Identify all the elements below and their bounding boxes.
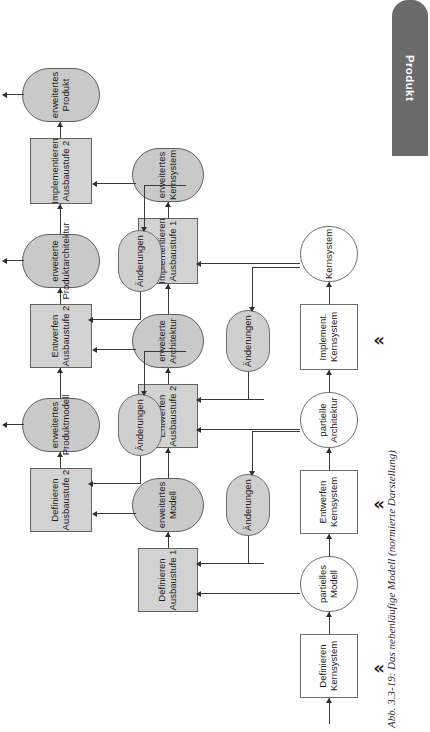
node-partielles-modell[interactable]: partielles Modell: [300, 556, 358, 612]
figure-page: Definieren Kernsystem partielles Modell …: [0, 0, 430, 732]
edge-r2arch-up: [96, 349, 136, 350]
arrowhead-r3kern-up: [196, 261, 201, 267]
edge-aend-r2-2-riser: [200, 399, 248, 400]
node-erweiterte-produktarchitektur[interactable]: erweiterte Produktarchitektur: [22, 234, 100, 288]
arrowhead-partarch-to-implement: [326, 370, 332, 375]
edge-r3modell-up: [200, 593, 300, 594]
arrowhead-cont-3: [2, 92, 7, 98]
edge-erwkern-riser: [144, 185, 186, 186]
edge-aend-r2-2-left: [248, 372, 249, 400]
diagram-canvas: Definieren Kernsystem partielles Modell …: [0, 0, 430, 732]
milestone-marker-1: «: [373, 659, 385, 677]
node-aenderungen-r2-1[interactable]: Änderungen: [226, 474, 270, 536]
edge-aend-r1-1-riser: [92, 483, 140, 484]
arrowhead-partmodell-to-entwerfen: [326, 534, 332, 539]
edge-cont-2: [6, 260, 24, 261]
node-implementieren-ausbaustufe-2[interactable]: Implementieren Ausbaustufe 2: [30, 138, 92, 204]
arrowhead-r2-a1-to-erwmodell: [165, 532, 171, 537]
node-aenderungen-r1-2[interactable]: Änderungen: [118, 230, 162, 292]
edge-aend-r1-2-riser: [92, 319, 140, 320]
arrowhead-erwkern-to-aend-r1-2: [141, 227, 147, 232]
node-entwerfen-kernsystem[interactable]: Entwerfen Kernsystem: [300, 470, 358, 534]
node-implement-kernsystem[interactable]: Implement. Kernsystem: [300, 304, 358, 370]
edge-kernsystem-to-aend-r2-2: [252, 268, 253, 310]
continuation-dots-3: ⋯: [0, 88, 1, 103]
edge-kernsystem-riser: [252, 267, 300, 268]
edge-r3kern-up: [200, 263, 300, 264]
node-partielle-architektur[interactable]: partielle Architektur: [300, 392, 358, 448]
node-erweitertes-kernsystem[interactable]: erweitertes Kernsystem: [132, 148, 204, 202]
node-erweitertes-produktmodell[interactable]: erweitertes Produktmodell: [22, 398, 100, 452]
arrowhead-r1-entw-to-prodarch: [57, 288, 63, 293]
edge-cont-1: [6, 424, 24, 425]
arrowhead-partarch-to-aend-r2-1: [249, 471, 255, 476]
arrowhead-erwarch-to-aend-r1-1: [141, 391, 147, 396]
edge-cont-3: [6, 94, 24, 95]
arrowhead-r1-impl-to-erwprodukt: [57, 122, 63, 127]
edge-aend-r1-2-left: [140, 292, 141, 320]
arrowhead-aend-r1-1-up: [88, 481, 93, 487]
edge-partarch-riser: [252, 431, 300, 432]
edge-r3arch-up: [200, 429, 300, 430]
edge-r2kern-up: [96, 183, 136, 184]
node-erweitertes-modell[interactable]: erweitertes Modell: [132, 478, 204, 532]
arrowhead-def-to-partmodell: [326, 612, 332, 617]
produkt-tab-label: Produkt: [404, 55, 416, 101]
edge-erwarch-riser: [144, 351, 186, 352]
edge-aend-r2-1-up: [248, 563, 264, 564]
edge-erwarch-to-aend-r1-1: [144, 352, 145, 394]
edge-partarch-to-aend-r2-1: [252, 432, 253, 474]
arrowhead-aend-r2-1-up: [196, 561, 201, 567]
arrowhead-r2-impl-to-erwkern: [165, 202, 171, 207]
edge-aend-r2-1-left: [248, 536, 249, 564]
arrowhead-implement-to-kernsystem: [326, 282, 332, 287]
arrowhead-aend-r2-2-up: [196, 397, 201, 403]
arrowhead-r2-entw-to-erwarch: [165, 368, 171, 373]
continuation-dots-1: ⋯: [0, 418, 1, 433]
milestone-marker-3: «: [373, 331, 385, 349]
node-erweitertes-produkt[interactable]: erweitertes Produkt: [22, 68, 100, 122]
edge-aend-r1-1-left: [140, 456, 141, 484]
edge-aend-r2-1-riser: [200, 563, 248, 564]
figure-rotation-wrapper: Definieren Kernsystem partielles Modell …: [0, 0, 430, 732]
node-definieren-ausbaustufe-1[interactable]: Definieren Ausbaustufe 1: [138, 548, 198, 612]
node-erweiterte-architektur[interactable]: erweiterte Architektur: [132, 314, 204, 368]
arrowhead-cont-2: [2, 258, 7, 264]
edge-r2modell-up: [96, 513, 136, 514]
arrowhead-kernsystem-to-aend-r2-2: [249, 307, 255, 312]
arrowhead-r3modell-up: [196, 591, 201, 597]
node-entwerfen-ausbaustufe-2-row1[interactable]: Entwerfen Ausbaustufe 2: [30, 304, 92, 368]
arrowhead-r2kern-up: [92, 181, 97, 187]
arrowhead-entry-kernsystem: [326, 698, 332, 703]
arrowhead-r2-erwarch-to-impl: [165, 284, 171, 289]
node-aenderungen-r2-2[interactable]: Änderungen: [226, 310, 270, 372]
edge-erwkern-to-aend-r1-2: [144, 186, 145, 230]
produkt-tab[interactable]: Produkt: [392, 0, 428, 156]
arrowhead-r3arch-up: [196, 427, 201, 433]
continuation-dots-2: ⋯: [0, 254, 1, 269]
arrowhead-r2arch-up: [92, 347, 97, 353]
edge-aend-r2-2-up: [248, 399, 264, 400]
arrowhead-entwerfen-to-partarch: [326, 448, 332, 453]
node-kernsystem[interactable]: Kernsystem: [300, 226, 358, 282]
node-definieren-kernsystem[interactable]: Definieren Kernsystem: [300, 634, 358, 698]
arrowhead-r1-d2-to-prodmodell: [57, 452, 63, 457]
arrowhead-cont-1: [2, 422, 7, 428]
node-aenderungen-r1-1[interactable]: Änderungen: [118, 394, 162, 456]
node-definieren-ausbaustufe-2[interactable]: Definieren Ausbaustufe 2: [30, 468, 92, 532]
arrowhead-r1-prodmodell-to-entw: [57, 368, 63, 373]
arrowhead-aend-r1-2-up: [88, 317, 93, 323]
arrowhead-r2modell-up: [92, 511, 97, 517]
arrowhead-r1-prodarch-to-impl: [57, 204, 63, 209]
milestone-marker-2: «: [373, 495, 385, 513]
arrowhead-r2-erwmodell-to-entw: [165, 448, 171, 453]
